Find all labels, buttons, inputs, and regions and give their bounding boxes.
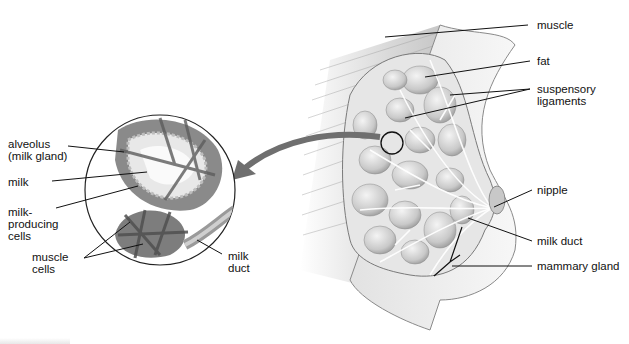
label-mammary-gland: mammary gland xyxy=(537,260,619,272)
label-muscle-cells: muscle cells xyxy=(32,251,68,275)
label-nipple: nipple xyxy=(537,184,568,196)
label-muscle: muscle xyxy=(537,19,573,31)
label-alveolus: alveolus (milk gland) xyxy=(8,138,67,162)
illustration xyxy=(0,0,629,344)
label-milk-producing-cells: milk- producing cells xyxy=(8,206,59,242)
label-suspensory-ligaments: suspensory ligaments xyxy=(537,83,596,107)
breast-anatomy-diagram: alveolus (milk gland) milk milk- produci… xyxy=(0,0,629,344)
label-milk-duct: milk duct xyxy=(537,235,582,247)
label-fat: fat xyxy=(537,55,550,67)
breast-cross-section xyxy=(300,25,516,330)
cropped-caption xyxy=(0,338,70,344)
alveolus-detail-inset xyxy=(85,115,235,265)
label-milk-duct-inset: milk duct xyxy=(228,250,250,274)
label-milk: milk xyxy=(8,176,28,188)
